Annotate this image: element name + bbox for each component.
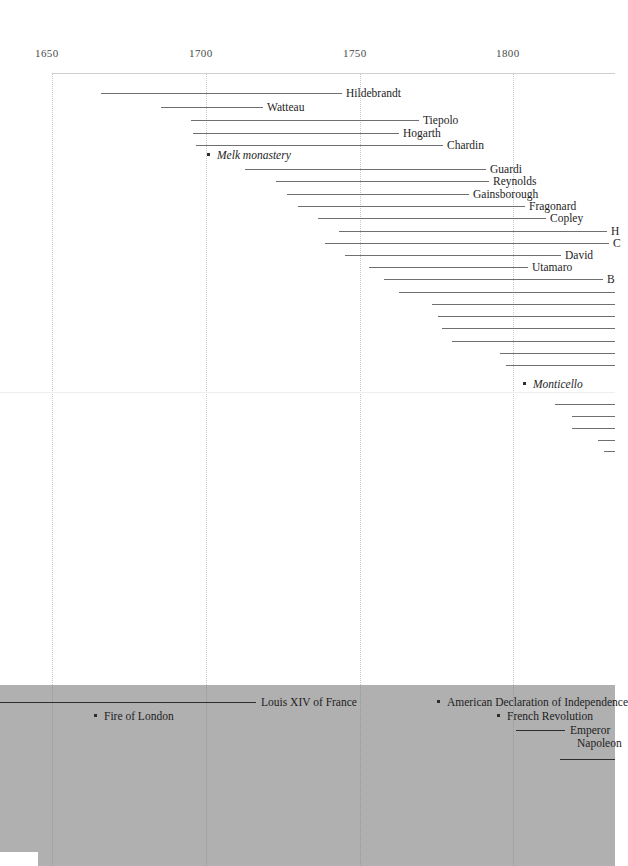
lifespan-bar	[325, 243, 609, 244]
lifespan-row: Watteau	[0, 100, 615, 114]
lifespan-bar	[555, 404, 615, 405]
lifespan-bar	[442, 328, 615, 329]
event-bar	[516, 730, 565, 731]
monument-label: Melk monastery	[217, 148, 291, 162]
marker-dot-icon	[497, 714, 500, 717]
lifespan-row: Hildebrandt	[0, 86, 615, 100]
lifespan-bar	[572, 416, 615, 417]
lifespan-bar	[339, 231, 607, 232]
axis-tick-1700: 1700	[189, 47, 213, 59]
axis-tick-1800: 1800	[496, 47, 520, 59]
event-row: French Revolution	[0, 709, 615, 723]
event-label: Napoleon	[577, 736, 622, 750]
lifespan-label: Tiepolo	[423, 113, 458, 127]
lifespan-row	[0, 358, 615, 372]
event-row	[0, 752, 615, 766]
band-corner-notch	[0, 852, 38, 866]
lifespan-row	[0, 444, 615, 458]
lifespan-bar	[452, 341, 615, 342]
lifespan-bar	[604, 451, 615, 452]
lifespan-bar	[438, 316, 615, 317]
lifespan-label: Hildebrandt	[346, 86, 401, 100]
lifespan-bar	[287, 194, 469, 195]
lifespan-bar	[193, 133, 399, 134]
event-row: American Declaration of Independence	[0, 695, 615, 709]
lifespan-bar	[161, 107, 263, 108]
lifespan-bar	[245, 169, 486, 170]
lifespan-bar	[345, 255, 561, 256]
chart-top-border	[52, 73, 615, 74]
lifespan-bar	[101, 93, 342, 94]
lifespan-label: Reynolds	[493, 174, 536, 188]
lifespan-bar	[500, 353, 615, 354]
lifespan-bar	[196, 145, 443, 146]
event-label: Emperor	[570, 723, 610, 737]
marker-dot-icon	[523, 382, 526, 385]
lifespan-bar	[432, 304, 615, 305]
event-row: Emperor	[0, 723, 615, 737]
lifespan-row	[0, 321, 615, 335]
lifespan-bar	[191, 120, 419, 121]
lifespan-label: Watteau	[267, 100, 304, 114]
lifespan-bar	[276, 181, 489, 182]
faint-section-divider	[0, 392, 615, 393]
marker-dot-icon	[437, 700, 440, 703]
lifespan-bar	[399, 292, 615, 293]
axis-tick-1750: 1750	[343, 47, 367, 59]
marker-dot-icon	[207, 153, 210, 156]
lifespan-row: Reynolds	[0, 174, 615, 188]
lifespan-bar	[598, 440, 615, 441]
event-label: French Revolution	[507, 709, 593, 723]
monument-marker: Melk monastery	[0, 148, 615, 162]
event-bar	[560, 759, 615, 760]
lifespan-row: Tiepolo	[0, 113, 615, 127]
lifespan-bar	[384, 279, 603, 280]
monument-label: Monticello	[533, 377, 583, 391]
lifespan-bar	[369, 267, 528, 268]
monument-marker: Monticello	[0, 377, 615, 391]
lifespan-label: B	[607, 272, 615, 286]
lifespan-row: B	[0, 272, 615, 286]
axis-tick-1650: 1650	[35, 47, 59, 59]
event-row: Napoleon	[0, 736, 615, 750]
lifespan-bar	[572, 428, 615, 429]
lifespan-label: Copley	[550, 211, 583, 225]
event-label: American Declaration of Independence	[447, 695, 628, 709]
lifespan-row: Copley	[0, 211, 615, 225]
lifespan-bar	[506, 365, 615, 366]
lifespan-bar	[318, 218, 546, 219]
lifespan-bar	[298, 206, 525, 207]
